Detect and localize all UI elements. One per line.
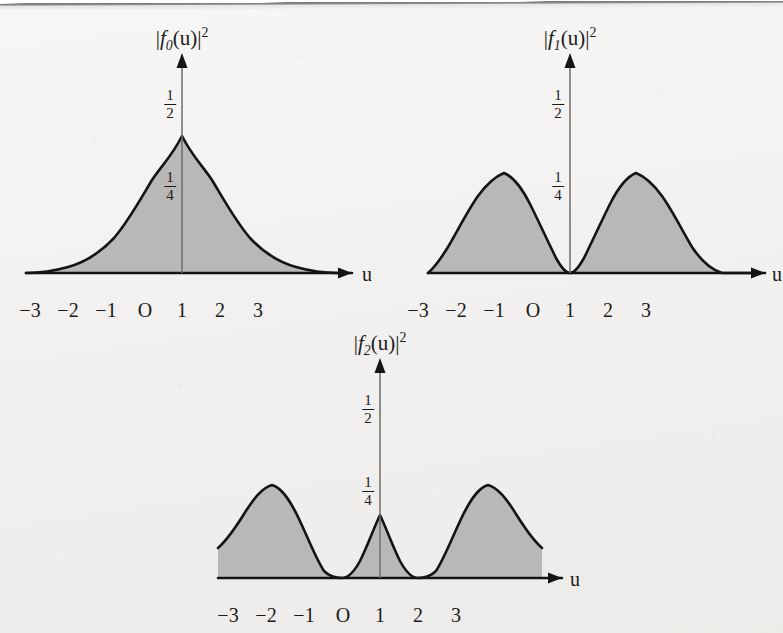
y-axis-arrow-f2	[375, 358, 386, 373]
y-tick-half-f0: 1 2	[164, 88, 176, 122]
y-tick-half-f2: 1 2	[362, 393, 374, 427]
x-tick-f1-neg2: −2	[445, 300, 466, 320]
x-tick-f0-pos3: 3	[253, 300, 263, 320]
x-axis-arrow-f2	[548, 573, 562, 584]
x-axis-label-f1: u	[772, 264, 782, 284]
y-tick-half-f1: 1 2	[552, 88, 564, 122]
x-tick-f1-neg1: −1	[483, 300, 504, 320]
figure-canvas: |f0(u)|2 1 2 1 4 −3 −2 −1 O 1 2 3 u	[0, 0, 783, 633]
plot-f1-canvas	[420, 20, 783, 290]
x-axis-arrow-f1	[751, 268, 765, 279]
x-tick-f2-neg3: −3	[217, 605, 238, 625]
x-tick-f1-origin: O	[526, 300, 540, 320]
x-tick-f0-pos1: 1	[177, 300, 187, 320]
y-axis-arrow-f0	[177, 53, 188, 68]
plot-f0-title: |f0(u)|2	[156, 26, 209, 53]
x-tick-f1-neg3: −3	[407, 300, 428, 320]
x-tick-f2-pos2: 2	[413, 605, 423, 625]
plot-f1: |f1(u)|2 1 2 1 4 −3 −2 −1 O 1 2 3 u	[420, 20, 783, 290]
plot-f0-canvas	[0, 20, 390, 290]
x-axis-label-f2: u	[570, 569, 580, 589]
curve-f1-fill	[428, 173, 760, 273]
scan-edge-artifact	[0, 0, 783, 10]
y-tick-quarter-f1: 1 4	[552, 170, 564, 204]
x-tick-f2-origin: O	[336, 605, 350, 625]
plot-f2-canvas	[200, 325, 600, 595]
x-tick-f1-pos3: 3	[641, 300, 651, 320]
x-tick-f0-pos2: 2	[215, 300, 225, 320]
x-tick-f2-pos3: 3	[451, 605, 461, 625]
x-axis-arrow-f0	[338, 268, 352, 279]
y-tick-quarter-f0: 1 4	[164, 170, 176, 204]
plot-f0: |f0(u)|2 1 2 1 4 −3 −2 −1 O 1 2 3 u	[0, 20, 390, 290]
plot-f1-title: |f1(u)|2	[544, 26, 597, 53]
plot-f2-title: |f2(u)|2	[354, 331, 407, 358]
x-tick-f1-pos1: 1	[565, 300, 575, 320]
plot-f2: |f2(u)|2 1 2 1 4 −3 −2 −1 O 1 2 3 u	[200, 325, 600, 595]
x-tick-f0-neg1: −1	[95, 300, 116, 320]
y-axis-arrow-f1	[565, 53, 576, 68]
x-tick-f2-neg1: −1	[293, 605, 314, 625]
x-tick-f0-neg2: −2	[57, 300, 78, 320]
x-tick-f1-pos2: 2	[603, 300, 613, 320]
x-tick-f2-pos1: 1	[375, 605, 385, 625]
x-tick-f2-neg2: −2	[255, 605, 276, 625]
x-tick-f0-neg3: −3	[19, 300, 40, 320]
x-axis-label-f0: u	[362, 264, 372, 284]
x-tick-f0-origin: O	[138, 300, 152, 320]
y-tick-quarter-f2: 1 4	[362, 475, 374, 509]
